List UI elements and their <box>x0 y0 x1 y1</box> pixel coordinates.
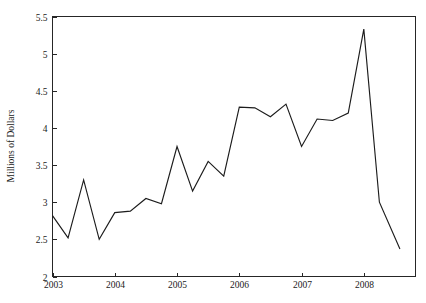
x-tick-label: 2003 <box>44 280 63 290</box>
x-tick-label: 2007 <box>293 280 312 290</box>
y-tick-label: 4 <box>43 124 48 134</box>
x-tick-label: 2004 <box>106 280 125 290</box>
data-series-line <box>53 29 400 249</box>
y-axis-ticks: 22.533.544.555.5 <box>36 13 57 283</box>
x-tick-label: 2005 <box>168 280 187 290</box>
axis-frame <box>53 17 416 277</box>
chart-figure: 22.533.544.555.5 20032004200520062007200… <box>0 0 426 303</box>
y-tick-label: 4.5 <box>36 87 48 97</box>
line-chart: 22.533.544.555.5 20032004200520062007200… <box>0 0 426 303</box>
y-tick-label: 5 <box>43 50 48 60</box>
y-tick-label: 2.5 <box>36 235 48 245</box>
y-tick-label: 5.5 <box>36 13 48 23</box>
x-tick-label: 2008 <box>355 280 374 290</box>
x-tick-label: 2006 <box>230 280 249 290</box>
x-axis-ticks: 200320042005200620072008 <box>44 273 374 290</box>
y-tick-label: 3 <box>43 198 48 208</box>
y-tick-label: 3.5 <box>36 161 48 171</box>
plot-border <box>53 17 416 277</box>
y-axis-title: Millions of Dollars <box>6 109 16 182</box>
